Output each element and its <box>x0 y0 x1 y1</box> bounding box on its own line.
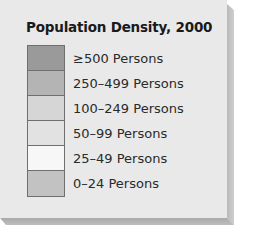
legend-label: 250–499 Persons <box>73 76 184 91</box>
legend-item-100-249: 100–249 Persons <box>27 95 184 121</box>
map-legend: Population Density, 2000 ≥500 Persons 25… <box>0 0 227 218</box>
legend-swatch <box>27 45 65 72</box>
panel-bevel-right <box>227 4 234 225</box>
legend-swatch <box>27 145 65 172</box>
legend-item-500-plus: ≥500 Persons <box>27 45 184 71</box>
legend-item-250-499: 250–499 Persons <box>27 70 184 96</box>
legend-label: 25–49 Persons <box>73 151 167 166</box>
legend-label: ≥500 Persons <box>73 51 163 66</box>
legend-swatch <box>27 70 65 97</box>
legend-items: ≥500 Persons 250–499 Persons 100–249 Per… <box>27 45 184 196</box>
legend-label: 50–99 Persons <box>73 126 167 141</box>
legend-item-50-99: 50–99 Persons <box>27 120 184 146</box>
legend-item-0-24: 0–24 Persons <box>27 170 184 196</box>
legend-swatch <box>27 95 65 122</box>
legend-swatch <box>27 170 65 197</box>
legend-swatch <box>27 120 65 147</box>
legend-label: 0–24 Persons <box>73 176 159 191</box>
legend-item-25-49: 25–49 Persons <box>27 145 184 171</box>
legend-label: 100–249 Persons <box>73 101 184 116</box>
panel-bevel-bottom <box>0 218 234 225</box>
legend-title: Population Density, 2000 <box>26 19 212 35</box>
